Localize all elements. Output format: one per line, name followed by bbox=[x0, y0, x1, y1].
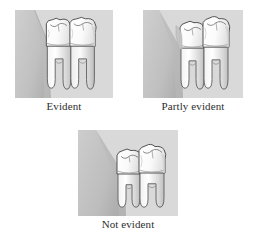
panel-evident: Evident bbox=[15, 10, 113, 113]
panel-partly-evident-illustration bbox=[143, 10, 243, 98]
panel-partly-evident: Partly evident bbox=[143, 10, 243, 113]
panel-not-evident: Not evident bbox=[78, 130, 178, 231]
panel-evident-illustration bbox=[15, 10, 113, 98]
panel-not-evident-illustration bbox=[78, 130, 178, 216]
panel-partly-evident-label: Partly evident bbox=[143, 100, 243, 113]
dental-eruption-figure: Evident bbox=[0, 0, 253, 244]
panel-evident-label: Evident bbox=[15, 100, 113, 113]
panel-not-evident-label: Not evident bbox=[78, 218, 178, 231]
